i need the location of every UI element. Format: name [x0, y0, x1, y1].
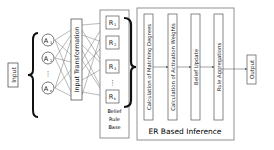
svg-text:2: 2 [50, 59, 52, 63]
rule-node-3: R3 [106, 60, 119, 73]
svg-text:Calculation of Matching Degree: Calculation of Matching Degrees [146, 24, 153, 110]
rule-base-label-3: Base [108, 124, 120, 130]
rule-ellipsis: ⋮ [109, 79, 116, 87]
antecedent-connections [55, 30, 71, 96]
svg-text:R: R [109, 19, 114, 27]
brb-er-diagram: Input A 1 A 2 ⋮ A n I [0, 0, 274, 150]
svg-text:Output: Output [249, 59, 256, 79]
antecedent-node-n: A n [42, 82, 54, 94]
svg-text:Calculation of Activation Weig: Calculation of Activation Weights [170, 23, 177, 111]
input-box: Input [8, 63, 18, 87]
er-label: ER Based Inference [149, 127, 222, 136]
svg-text:1: 1 [114, 23, 116, 27]
input-brace [28, 33, 38, 117]
svg-text:3: 3 [114, 67, 116, 71]
belief-rule-base: R1 R2 R3 ⋮ Rk Belief Rule Base [100, 10, 129, 138]
svg-text:R: R [109, 93, 114, 101]
rule-base-label-2: Rule [109, 116, 120, 122]
svg-text:Rule Aggregations: Rule Aggregations [216, 43, 223, 92]
rule-node-k: Rk [106, 90, 119, 103]
antecedent-node-1: A 1 [42, 34, 54, 46]
svg-text:Belief Update: Belief Update [193, 49, 200, 85]
svg-text:2: 2 [114, 43, 116, 47]
svg-text:n: n [50, 89, 52, 93]
rule-base-label-1: Belief [107, 108, 121, 114]
er-inference-box: Calculation of Matching Degrees Calculat… [137, 8, 234, 140]
input-transformation-box: Input Transformation [71, 19, 82, 100]
antecedent-node-2: A 2 [42, 52, 54, 64]
svg-text:R: R [109, 39, 114, 47]
rule-node-2: R2 [106, 36, 119, 49]
rule-node-1: R1 [106, 16, 119, 29]
svg-text:Input Transformation: Input Transformation [73, 27, 81, 93]
svg-text:1: 1 [50, 41, 52, 45]
antecedent-ellipsis: ⋮ [45, 70, 52, 78]
svg-text:A: A [44, 37, 49, 45]
input-label: Input [10, 67, 18, 83]
svg-text:A: A [44, 85, 49, 93]
svg-text:A: A [44, 55, 49, 63]
output-box: Output [247, 55, 256, 84]
svg-text:R: R [109, 63, 114, 71]
